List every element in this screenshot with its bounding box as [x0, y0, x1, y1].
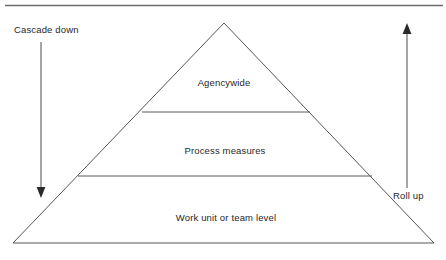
band-label-agencywide: Agencywide [198, 77, 251, 88]
arrow-down-icon [37, 187, 46, 198]
cascade-down-label: Cascade down [14, 24, 79, 35]
pyramid-diagram: Agencywide Process measures Work unit or… [0, 0, 446, 260]
band-label-process-measures: Process measures [184, 145, 265, 156]
pyramid-left-edge [13, 23, 224, 243]
arrow-up-icon [403, 23, 412, 34]
diagram-canvas: Agencywide Process measures Work unit or… [0, 0, 446, 260]
pyramid-right-edge [224, 23, 434, 243]
band-label-work-unit-team-level: Work unit or team level [176, 212, 276, 223]
roll-up-label: Roll up [393, 190, 424, 201]
